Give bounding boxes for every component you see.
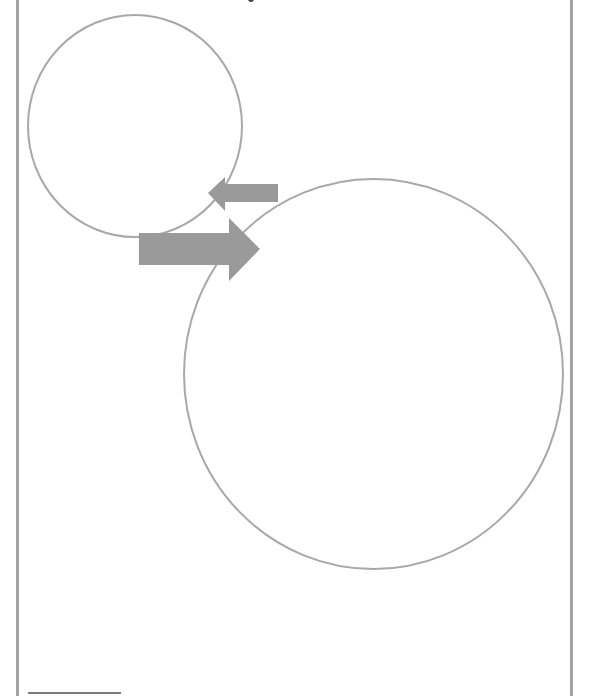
right-arrow-icon — [139, 218, 260, 281]
small-circle — [28, 15, 242, 237]
left-arrow-icon — [208, 177, 278, 211]
circles-diagram — [0, 0, 589, 696]
footnote-separator-rule — [28, 692, 121, 694]
